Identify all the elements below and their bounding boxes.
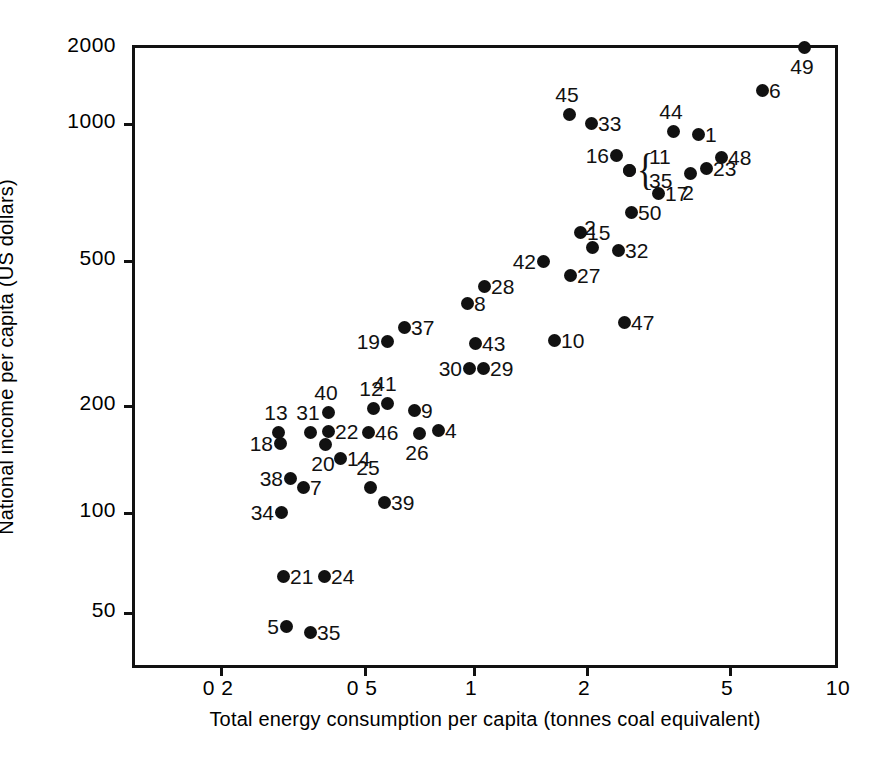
x-axis-tick — [220, 665, 223, 676]
data-point — [618, 316, 631, 329]
data-point-label: 5 — [267, 616, 279, 637]
data-point-label: 2 — [584, 217, 596, 238]
data-point-label: 50 — [638, 202, 661, 223]
data-point — [585, 117, 598, 130]
data-point-label: 31 — [296, 402, 319, 423]
data-point-label: 22 — [335, 421, 358, 442]
y-axis-tick-label: 1000 — [67, 109, 116, 133]
data-point — [334, 452, 347, 465]
data-point — [274, 437, 287, 450]
scatter-plot-figure: National income per capita (US dollars) … — [0, 0, 875, 783]
data-point-label: 28 — [491, 276, 514, 297]
y-axis-tick — [124, 405, 135, 408]
data-point — [463, 362, 476, 375]
data-point-label: 19 — [357, 331, 380, 352]
data-point — [477, 362, 490, 375]
data-point — [798, 41, 811, 54]
data-point-label: 39 — [391, 492, 414, 513]
data-point — [461, 297, 474, 310]
data-point-label: 45 — [555, 84, 578, 105]
data-point — [398, 321, 411, 334]
y-axis-tick — [124, 512, 135, 515]
data-point — [548, 334, 561, 347]
data-point-label: 38 — [260, 468, 283, 489]
data-point-label: 47 — [631, 312, 654, 333]
data-point — [275, 506, 288, 519]
data-point — [684, 167, 697, 180]
data-point — [413, 427, 426, 440]
x-axis-tick-label: 1 — [465, 676, 477, 700]
data-point-label: 16 — [586, 145, 609, 166]
data-point — [378, 496, 391, 509]
y-axis-tick — [124, 612, 135, 615]
data-point — [692, 128, 705, 141]
data-point-label: 7 — [310, 477, 322, 498]
data-point — [612, 244, 625, 257]
y-axis-title: National income per capita (US dollars) — [0, 179, 18, 535]
data-point — [537, 255, 550, 268]
data-point — [322, 406, 335, 419]
y-axis-tick — [124, 260, 135, 263]
data-point-label: 44 — [659, 101, 682, 122]
data-point-label: 37 — [411, 317, 434, 338]
data-point-label: 11 — [649, 146, 671, 167]
data-point-label: 42 — [513, 251, 536, 272]
x-axis-tick-label: 5 — [721, 676, 733, 700]
x-axis-tick-label: 2 — [578, 676, 590, 700]
y-axis-tick-label: 100 — [79, 498, 116, 522]
data-point — [432, 424, 445, 437]
data-point-label: 46 — [375, 422, 398, 443]
data-point — [318, 570, 331, 583]
data-point — [297, 481, 310, 494]
data-point — [469, 337, 482, 350]
data-point-label: 32 — [625, 240, 648, 261]
x-axis-tick-label: 0 2 — [203, 676, 234, 700]
data-point-label: 20 — [311, 453, 334, 474]
x-axis-tick — [586, 665, 589, 676]
data-point-label: 1 — [705, 124, 717, 145]
y-axis-tick — [124, 123, 135, 126]
data-point-label: 25 — [356, 457, 379, 478]
data-point — [284, 472, 297, 485]
data-point-label: 49 — [790, 56, 813, 77]
y-axis-tick-label: 50 — [92, 598, 116, 622]
data-point-label: 27 — [577, 265, 600, 286]
plot-area — [132, 45, 838, 668]
data-point — [586, 241, 599, 254]
data-point — [756, 84, 769, 97]
data-point-label: 10 — [561, 330, 584, 351]
data-point — [667, 125, 680, 138]
data-point-label: 29 — [490, 358, 513, 379]
x-axis-tick-label: 0 5 — [347, 676, 378, 700]
data-point-label: 35 — [317, 622, 340, 643]
data-point-label: 12 — [359, 378, 382, 399]
data-point — [700, 162, 713, 175]
data-point — [623, 164, 636, 177]
data-point-label: 21 — [290, 566, 313, 587]
data-point — [652, 187, 665, 200]
data-point-label: 26 — [405, 442, 428, 463]
x-axis-title: Total energy consumption per capita (ton… — [132, 708, 838, 731]
data-point — [280, 620, 293, 633]
data-point — [277, 570, 290, 583]
data-point-label: 18 — [250, 433, 273, 454]
data-point-label: 33 — [598, 113, 621, 134]
x-axis-tick — [364, 665, 367, 676]
data-point — [367, 402, 380, 415]
data-point — [322, 425, 335, 438]
data-point-label: 9 — [421, 400, 433, 421]
data-point — [625, 206, 638, 219]
x-axis-tick — [729, 665, 732, 676]
data-point-label: 6 — [769, 80, 781, 101]
data-point — [381, 335, 394, 348]
data-point — [304, 426, 317, 439]
y-axis-tick-label: 500 — [79, 246, 116, 270]
data-point — [319, 438, 332, 451]
y-axis-tick-label: 200 — [79, 391, 116, 415]
data-point-label: 34 — [251, 502, 274, 523]
data-point — [563, 108, 576, 121]
data-point-label: 8 — [474, 293, 486, 314]
data-point-label: 40 — [314, 382, 337, 403]
data-point — [304, 626, 317, 639]
data-point-label: 43 — [482, 333, 505, 354]
